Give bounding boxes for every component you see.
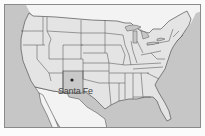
map-frame: Santa Fe: [4, 4, 201, 128]
santa-fe-marker: [70, 78, 73, 81]
santa-fe-label: Santa Fe: [58, 86, 93, 96]
us-map: [5, 5, 201, 128]
